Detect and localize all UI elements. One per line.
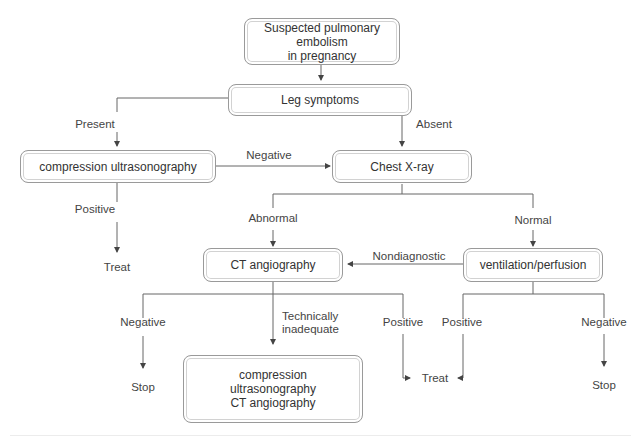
node-leg-symptoms: Leg symptoms bbox=[228, 84, 412, 116]
outcome-treat-cus: Treat bbox=[104, 261, 130, 274]
edge-label-abnormal: Abnormal bbox=[248, 212, 297, 225]
edge-label-positive-vq: Positive bbox=[442, 316, 482, 329]
footer-divider bbox=[10, 435, 631, 436]
edge-label-normal: Normal bbox=[514, 214, 551, 227]
edge-label-negative-vq: Negative bbox=[581, 316, 626, 329]
edge-label-negative-cus: Negative bbox=[246, 149, 291, 162]
edge-label-positive-cus: Positive bbox=[75, 203, 115, 216]
node-chest-xray: Chest X-ray bbox=[332, 150, 472, 183]
node-compression-ultrasonography: compression ultrasonography bbox=[20, 150, 216, 183]
edge-label-technically-inadequate: Technically inadequate bbox=[282, 310, 339, 336]
edge-label-nondiagnostic: Nondiagnostic bbox=[373, 250, 446, 263]
outcome-stop-ct: Stop bbox=[131, 381, 155, 394]
edge-label-negative-ct: Negative bbox=[120, 316, 165, 329]
node-ct-angiography: CT angiography bbox=[203, 248, 343, 282]
outcome-treat: Treat bbox=[422, 372, 448, 385]
edge-label-present: Present bbox=[75, 118, 115, 131]
node-suspected-pe: Suspected pulmonary embolism in pregnanc… bbox=[244, 18, 400, 65]
outcome-stop-vq: Stop bbox=[592, 379, 616, 392]
edge-label-absent: Absent bbox=[416, 118, 452, 131]
edge-label-positive-ct: Positive bbox=[383, 316, 423, 329]
node-cus-ct-angiography: compression ultrasonography CT angiograp… bbox=[183, 355, 363, 423]
node-ventilation-perfusion: ventilation/perfusion bbox=[463, 248, 603, 282]
